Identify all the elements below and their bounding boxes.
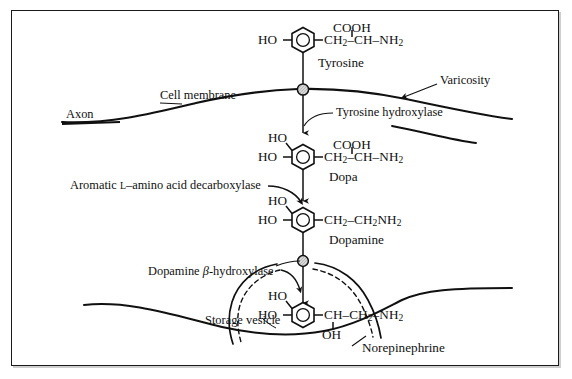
norepinephrine-nh2-sub: 2 [399,313,404,323]
tyrosine-nh2-sub: 2 [399,38,404,48]
norepinephrine-hydroxyl-upper: HO [268,289,287,302]
leader-tyrosine-hydroxylase [304,113,333,126]
leader-varicosity [404,84,437,97]
norepinephrine-name: Norepinephrine [362,341,445,354]
axon-label: Axon [66,108,94,120]
dopa-ch2: CH [324,149,343,164]
membrane-transporter-icon [297,84,308,95]
leader-dopamine-beta-hydroxylase [276,261,300,290]
dopamine-nh2-sub: 2 [397,218,402,228]
cell-membrane-label: Cell membrane [160,89,236,101]
cell-membrane-upper [62,89,512,122]
tyrosine-name: Tyrosine [318,56,364,69]
aromatic-decarboxylase-prefix: Aromatic [70,178,120,192]
aromatic-decarboxylase-suffix: –amino acid decarboxylase [126,178,261,192]
dopa-hydroxyl-left: HO [258,150,277,163]
dopamine-name: Dopamine [329,233,384,246]
dopamine-hydroxyl-upper: HO [268,194,287,207]
leader-cell-membrane [160,103,182,104]
dopa-side-chain: CH2–CH–NH2 [324,150,403,166]
tyrosine-ch2: CH [324,32,343,47]
dopamine-hydroxyl-left: HO [258,213,277,226]
dopamine-chain-mid: –CH [347,212,372,227]
tyrosine-side-chain: CH2–CH–NH2 [324,33,403,49]
norepinephrine-hydroxyl-beta: OH [322,328,341,341]
tyrosine-chain-mid: –CH–NH [347,32,398,47]
storage-vesicle-label: Storage vesicle [205,314,280,326]
molecule-ring-dopamine [283,206,323,241]
figure-root: COOH HO CH2–CH–NH2 Tyrosine COOH HO HO C… [0,0,572,379]
dopa-name: Dopa [329,170,358,183]
norepinephrine-chain-head: CH–CH [324,307,368,322]
varicosity-inner-membrane-right [392,126,476,143]
varicosity-label: Varicosity [440,74,490,86]
enzyme-tyrosine-hydroxylase-label: Tyrosine hydroxylase [336,106,443,118]
norepinephrine-chain-mid: –NH [373,307,399,322]
norepinephrine-side-chain: CH–CH2–NH2 [324,308,403,324]
enzyme-aromatic-decarboxylase-label: Aromatic L–amino acid decarboxylase [70,179,261,191]
dopamine-ch2: CH [324,212,343,227]
dopamine-nh: NH [377,212,396,227]
dopa-chain-mid: –CH–NH [347,149,398,164]
dopamine-side-chain: CH2–CH2NH2 [324,213,402,229]
dopa-hydroxyl-upper: HO [268,131,287,144]
enzyme-dopamine-beta-hydroxylase-label: Dopamine β-hydroxylase [148,265,274,277]
dopamine-hydroxylase-prefix: Dopamine [148,264,203,278]
tyrosine-hydroxyl-left: HO [258,33,277,46]
dopamine-hydroxylase-suffix: -hydroxylase [209,264,274,278]
dopa-nh2-sub: 2 [399,155,404,165]
